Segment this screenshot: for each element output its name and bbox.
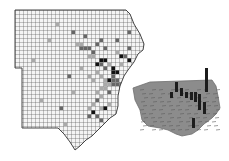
medium-cell bbox=[99, 118, 103, 122]
medium-cell bbox=[95, 114, 99, 118]
value-bar bbox=[192, 118, 195, 128]
value-bar bbox=[194, 92, 197, 102]
light-cell bbox=[51, 130, 55, 134]
medium-cell bbox=[79, 46, 83, 50]
medium-cell bbox=[87, 46, 91, 50]
medium-cell bbox=[83, 46, 87, 50]
light-cell bbox=[95, 90, 99, 94]
medium-cell bbox=[111, 78, 115, 82]
dark-cell bbox=[123, 86, 127, 90]
medium-cell bbox=[95, 42, 99, 46]
light-cell bbox=[99, 74, 103, 78]
dark-cell bbox=[127, 58, 131, 62]
light-cell bbox=[107, 102, 111, 106]
value-bar bbox=[175, 82, 178, 92]
light-cell bbox=[95, 70, 99, 74]
light-cell bbox=[39, 98, 43, 102]
medium-cell bbox=[95, 98, 99, 102]
perspective-view bbox=[133, 68, 220, 136]
light-cell bbox=[87, 106, 91, 110]
value-bar bbox=[180, 88, 183, 96]
light-cell bbox=[99, 106, 103, 110]
light-cell bbox=[91, 54, 95, 58]
medium-cell bbox=[115, 82, 119, 86]
light-cell bbox=[55, 22, 59, 26]
dark-cell bbox=[103, 58, 107, 62]
medium-cell bbox=[103, 66, 107, 70]
dark-cell bbox=[119, 54, 123, 58]
medium-cell bbox=[115, 38, 119, 42]
light-cell bbox=[119, 62, 123, 66]
county-grid-figure bbox=[0, 0, 229, 161]
light-cell bbox=[115, 50, 119, 54]
dark-cell bbox=[111, 66, 115, 70]
light-cell bbox=[103, 78, 107, 82]
dark-cell bbox=[119, 102, 123, 106]
dark-cell bbox=[95, 62, 99, 66]
dark-cell bbox=[91, 110, 95, 114]
dark-cell bbox=[127, 94, 131, 98]
medium-cell bbox=[103, 46, 107, 50]
light-cell bbox=[87, 74, 91, 78]
dark-cell bbox=[119, 90, 123, 94]
value-bar bbox=[170, 92, 173, 98]
light-cell bbox=[75, 42, 79, 46]
light-cell bbox=[91, 78, 95, 82]
medium-cell bbox=[123, 54, 127, 58]
medium-cell bbox=[111, 82, 115, 86]
light-cell bbox=[31, 58, 35, 62]
medium-cell bbox=[127, 46, 131, 50]
dark-cell bbox=[123, 90, 127, 94]
value-bar bbox=[205, 68, 208, 92]
light-cell bbox=[63, 122, 67, 126]
value-bar bbox=[185, 92, 188, 98]
light-cell bbox=[107, 82, 111, 86]
value-bar bbox=[198, 94, 201, 110]
light-cell bbox=[103, 86, 107, 90]
medium-cell bbox=[99, 62, 103, 66]
light-cell bbox=[79, 66, 83, 70]
value-bar bbox=[190, 92, 193, 100]
light-cell bbox=[47, 38, 51, 42]
medium-cell bbox=[71, 30, 75, 34]
medium-cell bbox=[99, 38, 103, 42]
light-cell bbox=[103, 82, 107, 86]
dark-cell bbox=[139, 70, 143, 74]
medium-cell bbox=[87, 114, 91, 118]
light-cell bbox=[91, 102, 95, 106]
dark-cell bbox=[111, 70, 115, 74]
dark-cell bbox=[107, 78, 111, 82]
medium-cell bbox=[83, 34, 87, 38]
light-cell bbox=[107, 62, 111, 66]
light-cell bbox=[79, 42, 83, 46]
dark-cell bbox=[127, 90, 131, 94]
light-cell bbox=[71, 90, 75, 94]
dark-cell bbox=[123, 94, 127, 98]
light-cell bbox=[99, 86, 103, 90]
light-cell bbox=[99, 94, 103, 98]
medium-cell bbox=[59, 106, 63, 110]
medium-cell bbox=[127, 30, 131, 34]
dark-cell bbox=[103, 106, 107, 110]
dark-cell bbox=[87, 142, 91, 146]
dark-cell bbox=[99, 58, 103, 62]
medium-cell bbox=[107, 90, 111, 94]
medium-cell bbox=[115, 78, 119, 82]
medium-cell bbox=[111, 74, 115, 78]
value-bar bbox=[203, 102, 206, 114]
dark-cell bbox=[115, 70, 119, 74]
medium-cell bbox=[91, 50, 95, 54]
light-cell bbox=[87, 54, 91, 58]
medium-cell bbox=[67, 74, 71, 78]
